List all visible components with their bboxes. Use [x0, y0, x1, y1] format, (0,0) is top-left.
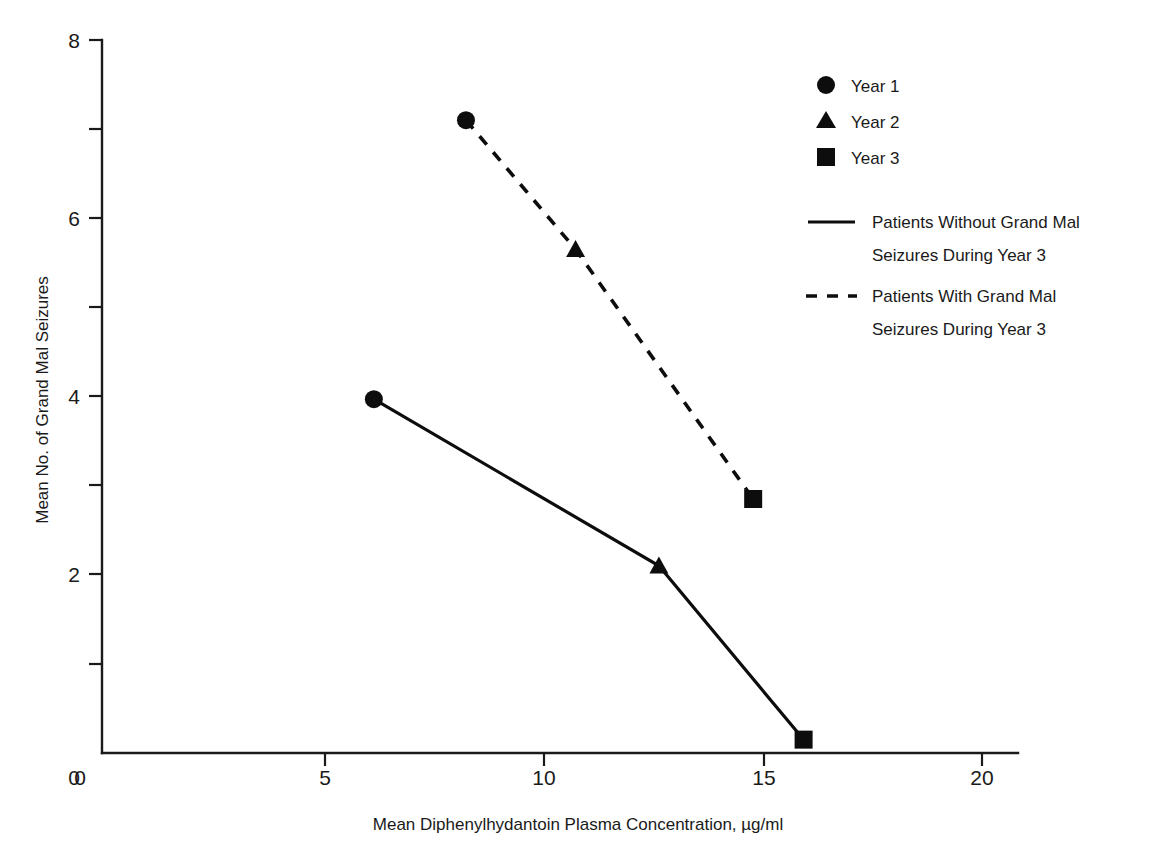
data-point-solid-year-3 — [795, 731, 813, 749]
legend-label-year-3: Year 3 — [851, 149, 900, 168]
legend-square-icon — [817, 148, 835, 166]
legend-triangle-icon — [816, 111, 836, 128]
series-markers-solid — [365, 390, 813, 748]
x-tick-label-20: 20 — [970, 766, 993, 789]
chart-page: 8 6 4 2 0 0 5 10 15 20 Mean Diphenylhyda… — [0, 0, 1157, 853]
y-axis-ticks — [89, 40, 102, 664]
y-tick-label-8: 8 — [68, 29, 80, 52]
line-chart: 8 6 4 2 0 0 5 10 15 20 Mean Diphenylhyda… — [0, 0, 1157, 853]
legend-circle-icon — [817, 76, 835, 94]
series-group — [365, 111, 813, 748]
series-line-solid — [374, 399, 804, 739]
legend-label-year-1: Year 1 — [851, 77, 900, 96]
y-tick-label-2: 2 — [68, 563, 80, 586]
y-tick-label-6: 6 — [68, 207, 80, 230]
data-point-dashed-year-1 — [457, 111, 475, 129]
x-axis-ticks — [325, 753, 982, 766]
legend-solid-label-line1: Patients Without Grand Mal — [872, 213, 1080, 232]
axes — [102, 40, 1018, 753]
legend-dashed-label-line1: Patients With Grand Mal — [872, 287, 1056, 306]
data-point-dashed-year-3 — [744, 490, 762, 508]
y-axis-tick-labels: 8 6 4 2 0 — [68, 29, 80, 789]
legend-solid-label-line2: Seizures During Year 3 — [872, 246, 1046, 265]
x-tick-label-0: 0 — [74, 766, 86, 789]
data-point-dashed-year-2 — [566, 240, 585, 257]
x-tick-label-15: 15 — [752, 766, 775, 789]
x-axis-title: Mean Diphenylhydantoin Plasma Concentrat… — [373, 815, 783, 834]
x-tick-label-10: 10 — [532, 766, 555, 789]
x-tick-label-5: 5 — [319, 766, 331, 789]
legend-label-year-2: Year 2 — [851, 113, 900, 132]
legend-linestyles: Patients Without Grand Mal Seizures Duri… — [806, 213, 1080, 339]
series-markers-dashed — [457, 111, 762, 508]
x-axis-tick-labels: 0 5 10 15 20 — [74, 766, 994, 789]
data-point-solid-year-2 — [649, 556, 668, 573]
y-tick-label-4: 4 — [68, 385, 80, 408]
data-point-solid-year-1 — [365, 390, 383, 408]
series-line-dashed — [466, 120, 753, 499]
legend-markers: Year 1 Year 2 Year 3 — [816, 76, 900, 168]
y-axis-title: Mean No. of Grand Mal Seizures — [33, 276, 52, 524]
legend-dashed-label-line2: Seizures During Year 3 — [872, 320, 1046, 339]
